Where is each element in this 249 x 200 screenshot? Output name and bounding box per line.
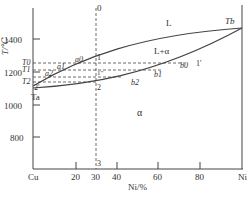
- y-axis-label: T/℃: [0, 36, 10, 55]
- point-a1: a1: [57, 62, 65, 71]
- point-1: 1: [97, 53, 101, 62]
- point-a2: a2: [45, 69, 53, 78]
- mark-T1: T1: [22, 65, 30, 74]
- x-tick-30: 30: [91, 172, 101, 182]
- x-tick-80: 80: [195, 172, 205, 182]
- point-3: 3: [97, 159, 101, 168]
- point-0: 0: [97, 3, 102, 13]
- point-Tb: Tb: [225, 16, 235, 26]
- point-b2: b2: [131, 78, 139, 87]
- x-label-cu: Cu: [28, 172, 39, 182]
- region-two-phase: L+α: [154, 46, 170, 56]
- point-1c: 1″: [97, 69, 104, 77]
- x-tick-40: 40: [112, 172, 122, 182]
- mark-T2: T2: [22, 77, 30, 86]
- point-b0: b0: [180, 61, 188, 70]
- point-2: 2: [97, 83, 101, 92]
- region-liquid: L: [166, 18, 172, 28]
- y-tick-1200: 1200: [4, 68, 23, 78]
- x-tick-20: 20: [71, 172, 81, 182]
- region-solid: α: [137, 107, 143, 118]
- point-2prime: 2': [34, 83, 40, 92]
- point-Ta: Ta: [31, 92, 40, 102]
- y-tick-1000: 1000: [4, 101, 23, 111]
- phase-diagram: 1400 1200 1000 800 T/℃ T0 T1 T2 Cu 20 30…: [0, 0, 249, 200]
- x-label-ni: Ni: [238, 172, 247, 182]
- y-tick-800: 800: [10, 133, 24, 143]
- point-b1: b1: [154, 70, 162, 79]
- point-1prime: 1': [196, 59, 202, 68]
- x-tick-60: 60: [153, 172, 163, 182]
- point-a0: a0: [75, 55, 83, 64]
- x-axis-label: Ni/%: [128, 182, 148, 192]
